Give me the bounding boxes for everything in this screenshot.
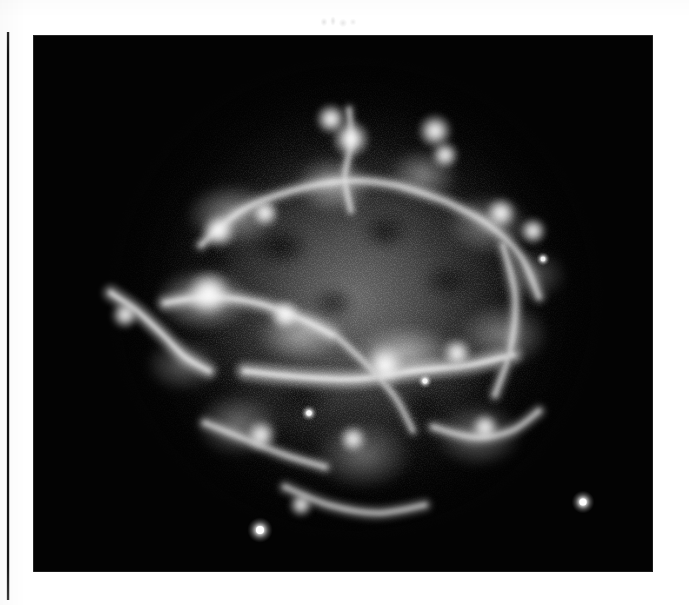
upper-arc-glow — [201, 181, 445, 245]
point-source-layer — [33, 35, 653, 572]
point-source-bottom-right-halo — [571, 490, 594, 513]
point-source-inner-halo — [417, 373, 432, 388]
knot-top-right-a — [416, 112, 454, 150]
lower-right-arc-glow — [433, 411, 539, 437]
vertical-top-streak — [345, 109, 351, 211]
lower-right-arc — [433, 411, 539, 437]
central-bright-band — [245, 355, 513, 379]
left-diagonal-spur-glow — [111, 293, 209, 371]
plate-canvas — [33, 35, 653, 572]
bottom-center-arc — [285, 487, 425, 513]
vertical-top-streak-glow — [345, 109, 351, 211]
mid-left-band-glow — [165, 297, 333, 335]
scanned-page — [0, 0, 689, 605]
nebula-filament-layer — [33, 35, 653, 572]
knot-top-center — [314, 102, 348, 136]
upper-right-arc — [445, 201, 539, 297]
knot-upper-right — [484, 196, 518, 230]
knot-mid-left-band — [184, 268, 233, 317]
central-bright-band-glow — [245, 355, 513, 379]
point-source-bottom-left — [256, 526, 264, 534]
center-cross-band-glow — [335, 335, 413, 431]
nebula-clump-layer — [33, 35, 653, 572]
knot-lower-right — [470, 412, 500, 442]
point-source-inner — [423, 379, 428, 384]
point-source-mid-left-halo — [301, 405, 318, 422]
bottom-center-arc-glow — [285, 487, 425, 513]
scan-artifact-smudge — [318, 14, 362, 30]
right-vertical-band — [495, 245, 515, 395]
knot-top-center-b — [330, 118, 372, 160]
knot-lower-center — [338, 424, 368, 454]
knot-top-right-b — [430, 140, 460, 170]
mid-left-band — [165, 297, 333, 335]
point-source-bottom-left-halo — [247, 517, 273, 543]
knot-right-edge — [518, 216, 548, 246]
lower-left-arc-glow — [205, 423, 325, 467]
point-source-bottom-right — [579, 498, 586, 505]
knot-top-arc-a — [250, 198, 280, 228]
knot-top-left — [200, 212, 238, 250]
photographic-grain-layer — [33, 35, 653, 572]
left-diagonal-spur — [111, 293, 209, 371]
knot-bottom-arc — [288, 492, 315, 519]
knot-center-filament — [362, 342, 408, 388]
point-source-right — [541, 257, 545, 261]
point-source-right-halo — [536, 252, 550, 266]
astronomical-image-plate — [33, 35, 653, 572]
upper-arc — [201, 181, 445, 245]
nebula-void-layer — [33, 35, 653, 572]
lower-left-arc — [205, 423, 325, 467]
knot-mid-band-a — [268, 298, 302, 332]
knot-lower-left — [244, 418, 278, 452]
nebula-halo-layer — [33, 35, 653, 572]
knot-left-spur — [110, 300, 140, 330]
point-source-mid-left — [306, 410, 311, 415]
center-cross-band — [335, 335, 413, 431]
knot-center-right — [440, 336, 474, 370]
upper-right-arc-glow — [445, 201, 539, 297]
right-vertical-band-glow — [495, 245, 515, 395]
left-margin-rule — [7, 32, 9, 600]
